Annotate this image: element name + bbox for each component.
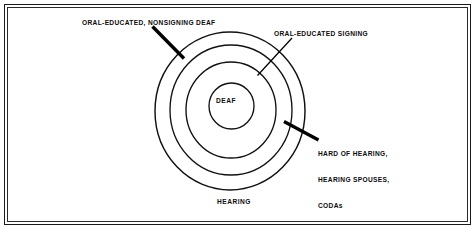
label-oral-educated-nonsigning-deaf: ORAL-EDUCATED, NONSIGNING DEAF (82, 19, 215, 28)
label-hard-of-hearing-line-1: HARD OF HEARING, (318, 150, 390, 159)
leader-line-oral-nonsigning (153, 27, 185, 59)
leader-line-oral-signing (258, 38, 293, 76)
ring-oral-educated-signing (186, 62, 276, 158)
ring-hard-of-hearing (170, 45, 292, 175)
label-hard-of-hearing-line-2: HEARING SPOUSES, (318, 176, 390, 185)
label-deaf-center: DEAF (216, 97, 236, 106)
label-hearing-outer: HEARING (217, 198, 251, 207)
concentric-circles-diagram (0, 0, 475, 229)
label-hard-of-hearing-line-3: CODAs (318, 202, 390, 211)
label-oral-educated-signing: ORAL-EDUCATED SIGNING (274, 30, 368, 39)
figure-root: ORAL-EDUCATED, NONSIGNING DEAF ORAL-EDUC… (0, 0, 475, 229)
label-hard-of-hearing-group: HARD OF HEARING, HEARING SPOUSES, CODAs (318, 133, 390, 228)
ring-hearing-outer (155, 32, 305, 190)
ring-deaf-core (209, 83, 254, 129)
